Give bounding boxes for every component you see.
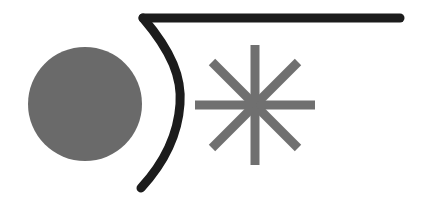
asterisk-star-shape xyxy=(195,45,315,165)
abstract-shapes-figure xyxy=(0,0,422,207)
figure-canvas xyxy=(0,0,422,207)
gray-disc-shape xyxy=(28,47,142,161)
